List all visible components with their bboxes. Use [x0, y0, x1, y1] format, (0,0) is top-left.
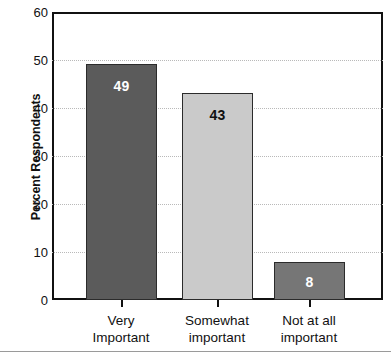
bar-chart: Percent Respondents 60 50 40 30 20 10 0 … [0, 0, 391, 358]
bar-very-important[interactable]: 49 [86, 64, 157, 300]
x-tick-very-important [121, 300, 123, 307]
bar-value-label-somewhat-important: 43 [183, 107, 252, 123]
x-category-line-2: important [254, 329, 364, 346]
x-category-label-very-important: Very Important [66, 312, 176, 347]
bar-not-at-all-important[interactable]: 8 [274, 262, 345, 300]
bars-layer: 49 43 8 [0, 0, 391, 358]
x-category-line-1: Not at all [282, 313, 335, 328]
x-tick-somewhat-important [217, 300, 219, 307]
bottom-divider [0, 351, 391, 352]
bar-somewhat-important[interactable]: 43 [182, 93, 253, 300]
x-category-line-2: Important [66, 329, 176, 346]
x-category-line-1: Somewhat [185, 313, 249, 328]
bar-value-label-very-important: 49 [87, 78, 156, 94]
x-tick-not-at-all-important [309, 300, 311, 307]
bar-value-label-not-at-all-important: 8 [275, 274, 344, 290]
x-category-label-not-at-all-important: Not at all important [254, 312, 364, 347]
x-category-line-1: Very [107, 313, 134, 328]
